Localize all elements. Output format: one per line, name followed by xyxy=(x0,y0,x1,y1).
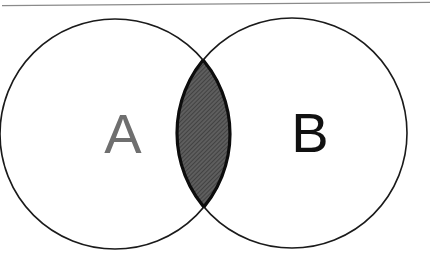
set-a-label: A xyxy=(104,102,142,165)
venn-diagram-canvas: A B xyxy=(0,0,432,256)
top-border-line xyxy=(2,2,430,5)
venn-diagram-figure: A B xyxy=(0,0,432,256)
set-b-label: B xyxy=(291,101,328,164)
